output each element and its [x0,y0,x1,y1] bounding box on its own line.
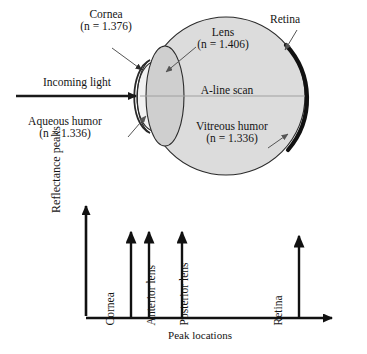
peak-label-anterior-lens: Anterior lens [145,265,157,325]
retina-label: Retina [270,13,330,25]
incoming-light-label: Incoming light [12,76,142,88]
vitreous-humor-label: Vitreous humor (n = 1.336) [179,120,285,145]
lens-label: Lens (n = 1.406) [177,26,269,51]
cornea-label: Cornea (n = 1.376) [60,8,152,33]
chart-x-axis-label: Peak locations [140,330,260,342]
retina-leader-line [285,30,297,50]
peak-label-cornea: Cornea [104,292,116,325]
a-line-scan-label: A-line scan [187,84,267,96]
cornea-leader-line [112,48,142,70]
peak-label-retina: Retina [272,295,284,325]
figure-root: Cornea (n = 1.376) Lens (n = 1.406) Reti… [0,0,367,354]
peak-label-posterior-lens: Posterior lens [178,262,190,325]
aqueous-humor-label: Aqueous humor (n = 1.336) [10,115,120,140]
chart-y-axis-label: Reflectance peaks [50,126,63,213]
